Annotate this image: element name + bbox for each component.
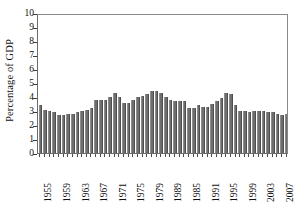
y-axis-tick-mark [33, 28, 37, 29]
x-axis-tick-label: 1955 [43, 158, 54, 202]
x-axis-tick-labels: 1955195919631967197119751979198919851991… [37, 158, 288, 202]
x-axis-tick-mark [165, 154, 166, 157]
x-axis-tick-mark [230, 154, 231, 157]
bar [57, 115, 61, 153]
x-axis-tick-mark [193, 154, 194, 157]
x-axis-tick-mark [81, 154, 82, 157]
x-axis-tick-label: 1967 [99, 158, 110, 202]
chart-container: Percentage of GDP 012345678910 195519591… [0, 0, 303, 202]
bar [94, 100, 98, 153]
x-axis-tick-mark [104, 154, 105, 157]
y-axis-tick-mark [33, 56, 37, 57]
x-axis-tick-mark [156, 154, 157, 157]
x-axis-tick-mark [95, 154, 96, 157]
x-axis-tick-mark [225, 154, 226, 157]
bar [113, 93, 117, 153]
bar [141, 96, 145, 153]
x-axis-tick-mark [63, 154, 64, 157]
x-axis-tick-mark [216, 154, 217, 157]
x-axis-tick-mark [72, 154, 73, 157]
x-axis-tick-mark [239, 154, 240, 157]
x-axis-tick-mark [100, 154, 101, 157]
y-axis-tick-mark [33, 154, 37, 155]
x-axis-tick-mark [262, 154, 263, 157]
x-axis-tick-mark [248, 154, 249, 157]
x-axis-tick-mark [221, 154, 222, 157]
x-axis-tick-mark [202, 154, 203, 157]
bar [136, 97, 140, 153]
x-axis-tick-mark [146, 154, 147, 157]
x-axis-tick-mark [258, 154, 259, 157]
bar [220, 98, 224, 153]
x-axis-tick-mark [151, 154, 152, 157]
bar [90, 108, 94, 153]
y-axis-tick-mark [33, 126, 37, 127]
x-axis-tick-mark [211, 154, 212, 157]
x-axis-tick-mark [253, 154, 254, 157]
x-axis-tick-mark [142, 154, 143, 157]
x-axis-tick-label: 1979 [155, 158, 166, 202]
bar [183, 101, 187, 153]
y-axis-tick-mark [33, 70, 37, 71]
y-axis-tick-mark [33, 98, 37, 99]
bar [206, 107, 210, 153]
bar [215, 101, 219, 153]
bar [131, 100, 135, 153]
y-axis-tick-mark [33, 84, 37, 85]
bar [85, 110, 89, 153]
bar [271, 112, 275, 153]
bar [118, 97, 122, 153]
x-axis-tick-mark [183, 154, 184, 157]
bar [276, 114, 280, 153]
x-axis-tick-mark [188, 154, 189, 157]
x-axis-tick-mark [118, 154, 119, 157]
bar [62, 115, 66, 153]
bar [229, 94, 233, 153]
x-axis-tick-mark [53, 154, 54, 157]
y-axis-tick-mark [33, 140, 37, 141]
x-axis-tick-mark [207, 154, 208, 157]
bar [192, 108, 196, 153]
bar [48, 111, 52, 153]
bar [248, 112, 252, 153]
x-axis-tick-mark [169, 154, 170, 157]
x-axis-tick-mark [244, 154, 245, 157]
x-axis-tick-label: 1989 [173, 158, 184, 202]
x-axis-tick-label: 2003 [266, 158, 277, 202]
x-axis-tick-mark [90, 154, 91, 157]
x-axis-tick-mark [114, 154, 115, 157]
bar [173, 101, 177, 153]
bar [52, 112, 56, 153]
bar [80, 111, 84, 153]
bar [127, 103, 131, 153]
x-axis-tick-mark [276, 154, 277, 157]
x-axis-tick-mark [197, 154, 198, 157]
bar [210, 104, 214, 153]
bar [43, 110, 47, 153]
bar [108, 97, 112, 153]
x-axis-tick-label: 2007 [285, 158, 296, 202]
y-axis-tick-mark [33, 112, 37, 113]
bar [266, 112, 270, 153]
x-axis-tick-mark [67, 154, 68, 157]
bar [76, 112, 80, 153]
x-axis-tick-mark [235, 154, 236, 157]
bar-series [38, 15, 287, 153]
bar [224, 93, 228, 153]
x-axis-tick-mark [174, 154, 175, 157]
y-axis-title-text: Percentage of GDP [4, 39, 15, 122]
bar [155, 91, 159, 153]
bar [178, 101, 182, 153]
bar [66, 114, 70, 153]
x-axis-tick-mark [272, 154, 273, 157]
y-axis-tick-mark [33, 14, 37, 15]
x-axis-tick-label: 1995 [229, 158, 240, 202]
bar [252, 111, 256, 153]
bar [234, 105, 238, 153]
bar [238, 111, 242, 153]
x-axis-tick-mark [123, 154, 124, 157]
x-axis-tick-mark [39, 154, 40, 157]
x-axis-tick-mark [267, 154, 268, 157]
x-axis-tick-label: 1975 [136, 158, 147, 202]
x-axis-tick-mark [109, 154, 110, 157]
